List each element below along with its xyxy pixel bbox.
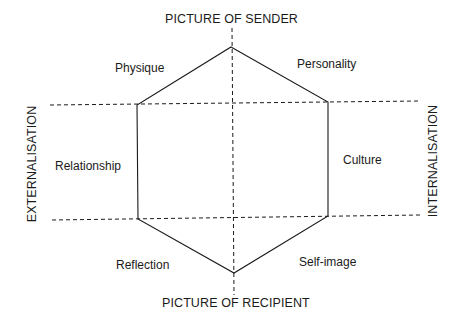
facet-self-image: Self-image (299, 256, 356, 268)
facet-relationship: Relationship (55, 160, 121, 172)
identity-prism-diagram: PICTURE OF SENDER PICTURE OF RECIPIENT E… (0, 0, 461, 325)
facet-physique: Physique (115, 62, 164, 74)
upper-dashed-guide (50, 101, 420, 105)
vertical-dashed-axis (232, 28, 234, 295)
axis-label-left: EXTERNALISATION (26, 106, 39, 223)
axis-label-bottom: PICTURE OF RECIPIENT (162, 297, 310, 310)
facet-culture: Culture (343, 154, 382, 166)
facet-reflection: Reflection (116, 259, 169, 271)
axis-label-right: INTERNALISATION (427, 105, 440, 217)
facet-personality: Personality (297, 58, 356, 70)
lower-dashed-guide (52, 215, 420, 220)
axis-label-top: PICTURE OF SENDER (165, 13, 298, 26)
